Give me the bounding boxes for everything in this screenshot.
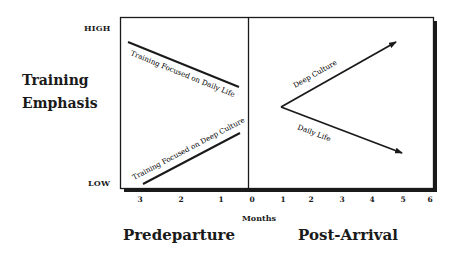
- tick-0: 0: [249, 195, 254, 204]
- tick-post-6: 6: [427, 195, 432, 204]
- tick-post-2: 2: [308, 195, 313, 204]
- tick-post-3: 3: [339, 195, 344, 204]
- tick-pre-2: 2: [178, 195, 183, 204]
- x-axis-label: Months: [242, 213, 276, 223]
- phase-label-post-arrival: Post-Arrival: [298, 226, 398, 244]
- tick-pre-1: 1: [218, 195, 223, 204]
- tick-post-5: 5: [400, 195, 405, 204]
- phase-label-predeparture: Predeparture: [123, 226, 235, 244]
- diagram-canvas: Training Focused on Daily Life Training …: [0, 0, 462, 255]
- tick-post-1: 1: [280, 195, 285, 204]
- tick-post-4: 4: [369, 195, 374, 204]
- tick-pre-3: 3: [137, 195, 142, 204]
